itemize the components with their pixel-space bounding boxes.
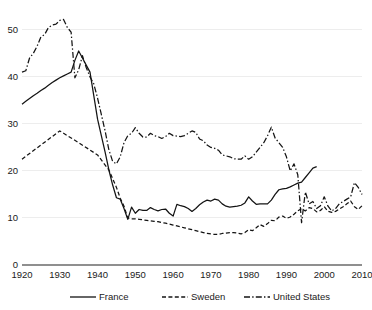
- y-tick-label: 50: [7, 24, 18, 35]
- x-tick-label: 1970: [200, 269, 221, 280]
- x-tick-label: 1940: [87, 269, 108, 280]
- legend-label-united-states: United States: [273, 291, 330, 302]
- x-tick-label: 1950: [125, 269, 146, 280]
- x-tick-label: 2000: [314, 269, 335, 280]
- y-tick-label: 40: [7, 71, 18, 82]
- x-axis-tick-labels: 1920193019401950196019701980199020002010: [11, 269, 372, 280]
- chart-legend: FranceSwedenUnited States: [70, 291, 330, 302]
- legend-label-sweden: Sweden: [191, 291, 225, 302]
- chart-canvas: 01020304050 1920193019401950196019701980…: [0, 0, 372, 310]
- x-tick-label: 1930: [49, 269, 70, 280]
- legend-label-france: France: [99, 291, 129, 302]
- x-tick-label: 1960: [163, 269, 184, 280]
- y-tick-label: 10: [7, 212, 18, 223]
- y-axis-tick-labels: 01020304050: [7, 24, 18, 270]
- y-tick-label: 30: [7, 118, 18, 129]
- gridlines: [22, 30, 362, 218]
- x-tick-label: 2010: [351, 269, 372, 280]
- x-tick-label: 1990: [276, 269, 297, 280]
- data-series-lines: [22, 19, 362, 234]
- series-line-sweden: [22, 131, 362, 234]
- y-tick-label: 20: [7, 165, 18, 176]
- x-tick-label: 1980: [238, 269, 259, 280]
- x-tick-label: 1920: [11, 269, 32, 280]
- series-line-united-states: [22, 19, 362, 222]
- line-chart-figure: 01020304050 1920193019401950196019701980…: [0, 0, 372, 310]
